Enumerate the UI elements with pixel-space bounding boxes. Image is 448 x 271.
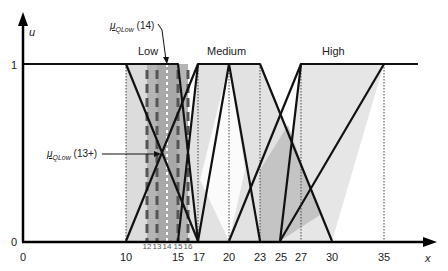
x-small-tick-13: 13	[153, 242, 162, 251]
x-axis-arrow	[423, 237, 437, 247]
x-tick-30: 30	[326, 251, 338, 263]
x-small-tick-15: 15	[174, 242, 183, 251]
x-small-tick-14: 14	[163, 242, 172, 251]
ann2-arg: (13+)	[71, 148, 97, 159]
set-label-low: Low	[138, 45, 158, 57]
svg-text:μQLow (13+): μQLow (13+)	[46, 148, 97, 162]
x-tick-0: 0	[20, 251, 26, 263]
ann2-sub: QLow	[52, 154, 71, 162]
small-x-ticks: 12 13 14 15 16	[143, 242, 193, 251]
annotation-mu-14: μQLow (14)	[109, 20, 169, 64]
ann1-arrow-line	[158, 24, 166, 60]
y-axis-arrow	[18, 12, 28, 26]
x-ticks: 0 10 15 17 20 23 25 27 30 35	[20, 251, 390, 263]
y-tick-0: 0	[11, 236, 17, 248]
x-tick-27: 27	[295, 251, 307, 263]
x-tick-20: 20	[223, 251, 235, 263]
x-axis-label: x	[424, 252, 431, 264]
x-tick-25: 25	[275, 251, 287, 263]
set-label-medium: Medium	[207, 45, 246, 57]
x-tick-17: 17	[193, 251, 205, 263]
x-small-tick-16: 16	[184, 242, 193, 251]
ann1-sub: QLow	[115, 26, 134, 34]
x-tick-15: 15	[172, 251, 184, 263]
x-small-tick-12: 12	[143, 242, 152, 251]
set-label-high: High	[322, 45, 345, 57]
ann1-arg: (14)	[134, 20, 155, 31]
y-tick-1: 1	[11, 59, 17, 71]
x-tick-23: 23	[254, 251, 266, 263]
y-axis-label: u	[29, 26, 35, 38]
x-tick-35: 35	[378, 251, 390, 263]
x-tick-10: 10	[120, 251, 132, 263]
svg-text:μQLow (14): μQLow (14)	[109, 20, 154, 34]
fuzzy-membership-chart: u x 1 0 0 10 15 17 20 23 25 27 30 35 12 …	[0, 0, 448, 271]
